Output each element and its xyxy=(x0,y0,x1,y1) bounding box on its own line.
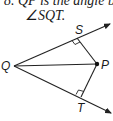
label-q: Q xyxy=(1,59,10,73)
label-s: S xyxy=(75,23,83,37)
segment-sp xyxy=(77,38,97,64)
label-t: T xyxy=(77,101,86,115)
point-p xyxy=(95,62,99,66)
segment-qp xyxy=(14,64,97,66)
segment-tp xyxy=(81,64,97,97)
ray-qs xyxy=(14,24,110,66)
label-p: P xyxy=(101,58,109,72)
geometry-diagram: Q P S T xyxy=(0,0,113,121)
ray-qt xyxy=(14,66,111,113)
